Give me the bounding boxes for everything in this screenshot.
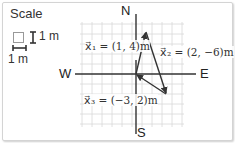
axes [75,14,196,134]
scale-horizontal-bar-icon [13,45,26,51]
vector-x2-label: x⃗₂ = (2, −6)m [160,46,234,58]
compass-east-label: E [200,66,209,81]
vector-x3-label: x⃗₃ = (−3, 2)m [84,94,158,106]
compass-south-label: S [137,125,146,140]
vector-x1-label: x⃗₁ = (1, 4)m [85,40,150,52]
compass-west-label: W [59,66,71,81]
scale-vertical-bar-icon [30,32,36,43]
compass-north-label: N [121,3,130,18]
